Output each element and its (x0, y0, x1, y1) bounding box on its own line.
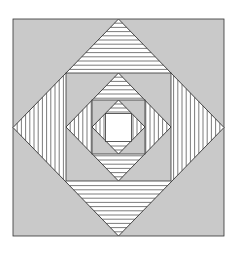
nested-diamond-pattern (0, 0, 237, 255)
innermost-square (106, 114, 132, 142)
geometric-pattern-figure (0, 0, 237, 255)
